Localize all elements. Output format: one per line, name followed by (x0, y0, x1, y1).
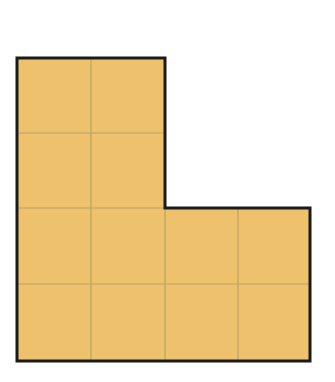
l-shape-diagram (0, 0, 335, 382)
